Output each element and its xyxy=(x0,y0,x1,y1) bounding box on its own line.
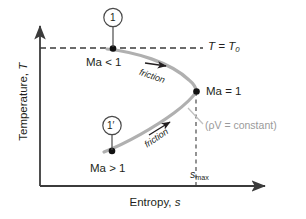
state-1-number: 1 xyxy=(110,13,116,23)
state-1-prime-number: 1′ xyxy=(107,121,114,131)
mass-flux-label: (ρV = constant) xyxy=(205,120,277,131)
smax-subscript: max xyxy=(195,174,208,182)
supersonic-state-label: Ma > 1 xyxy=(90,163,125,175)
sonic-point-marker xyxy=(193,88,200,95)
smax-label: smax xyxy=(190,169,209,182)
x-axis-label-text: Entropy, xyxy=(130,196,172,208)
fanno-line-diagram xyxy=(0,0,306,219)
stagnation-temperature-text: T = T xyxy=(208,40,235,52)
stagnation-temperature-label: T = T0 xyxy=(208,41,240,54)
y-axis-label-symbol: T xyxy=(17,63,29,70)
subsonic-state-label: Ma < 1 xyxy=(86,57,121,69)
y-axis-label: Temperature, T xyxy=(18,42,30,162)
x-axis-label-symbol: s xyxy=(175,196,181,208)
sonic-state-label: Ma = 1 xyxy=(206,86,241,98)
y-axis-label-text: Temperature, xyxy=(17,73,29,141)
x-axis-label: Entropy, s xyxy=(100,197,210,209)
stagnation-temperature-subscript: 0 xyxy=(235,45,239,54)
